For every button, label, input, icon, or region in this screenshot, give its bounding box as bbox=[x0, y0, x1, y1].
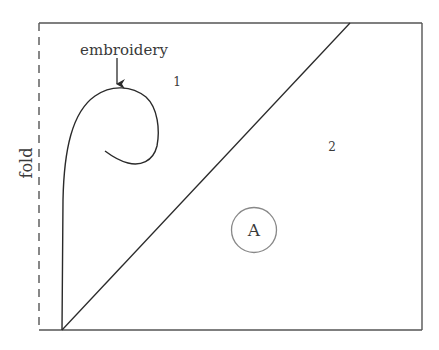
region-2-label: 2 bbox=[328, 140, 336, 154]
region-1-label: 1 bbox=[173, 75, 181, 89]
fold-label: fold bbox=[17, 148, 36, 179]
embroidery-curve bbox=[62, 88, 158, 330]
embroidery-label: embroidery bbox=[80, 41, 168, 59]
circle-a-label: A bbox=[247, 220, 261, 240]
pattern-diagram: embroidery 1 2 fold A bbox=[0, 0, 439, 350]
diagonal-line bbox=[62, 23, 350, 330]
